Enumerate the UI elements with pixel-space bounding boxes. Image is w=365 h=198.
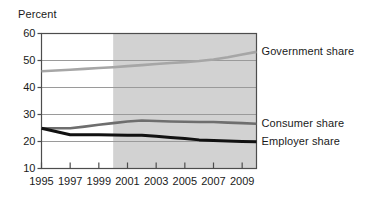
series-label-government-share: Government share xyxy=(262,45,355,57)
y-tick-label: 20 xyxy=(14,135,36,147)
y-tick-label: 40 xyxy=(14,81,36,93)
y-tick-label: 10 xyxy=(14,162,36,174)
projection-shading xyxy=(113,34,256,169)
chart-figure: Percent 605040302010 1995199719992001200… xyxy=(0,0,365,198)
series-label-employer-share: Employer share xyxy=(262,135,340,147)
series-label-consumer-share: Consumer share xyxy=(262,117,345,129)
y-tick-label: 50 xyxy=(14,54,36,66)
x-tick-label: 2009 xyxy=(225,175,259,187)
chart-plot-area xyxy=(0,0,365,198)
y-tick-label: 60 xyxy=(14,27,36,39)
y-tick-label: 30 xyxy=(14,108,36,120)
